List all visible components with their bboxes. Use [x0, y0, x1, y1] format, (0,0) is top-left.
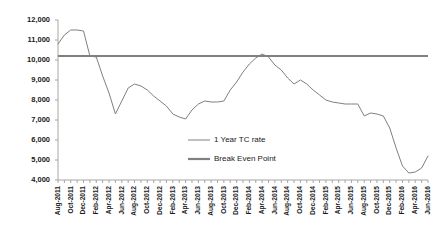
chart-legend: 1 Year TC rateBreak Even Point [188, 135, 277, 163]
x-axis-tick-label: Oct-2015 [373, 186, 380, 214]
x-axis-tick-label: Apr-2016 [411, 186, 419, 215]
x-axis-tick-label: Feb-2016 [398, 186, 405, 215]
y-axis-tick-label: 10,000 [27, 55, 50, 64]
y-axis-tick-label: 5,000 [31, 155, 50, 164]
y-axis-tick-label: 11,000 [27, 35, 50, 44]
x-axis-tick-label: Oct-2013 [220, 186, 227, 214]
y-axis-tick-label: 4,000 [31, 175, 50, 184]
x-axis-tick-label: Oct-2014 [296, 186, 303, 214]
x-axis-tick-label: Apr-2013 [181, 186, 189, 215]
x-axis-tick-label: Dec-2015 [385, 186, 392, 215]
x-axis-tick-label: Aug-2015 [360, 186, 368, 216]
x-axis-tick-label: Jun-2012 [118, 186, 125, 215]
x-axis-tick-label: Feb-2015 [322, 186, 329, 215]
x-axis-tick-label: Jun-2016 [424, 186, 431, 215]
x-axis-tick-label: Dec-2011 [79, 186, 86, 215]
line-chart: 4,0005,0006,0007,0008,0009,00010,00011,0… [0, 0, 434, 234]
x-axis-tick-label: Oct-2011 [67, 186, 74, 214]
x-axis-tick-label: Jun-2013 [194, 186, 201, 215]
y-axis-tick-label: 8,000 [31, 95, 50, 104]
chart-container: 4,0005,0006,0007,0008,0009,00010,00011,0… [0, 0, 434, 234]
x-axis-tick-label: Dec-2013 [232, 186, 239, 215]
x-axis-tick-label: Dec-2012 [156, 186, 163, 215]
x-axis-tick-label: Jun-2015 [347, 186, 354, 215]
x-axis-tick-label: Jun-2014 [271, 186, 278, 215]
y-axis-tick-label: 9,000 [31, 75, 50, 84]
x-axis-tick-label: Dec-2014 [309, 186, 316, 215]
x-axis-tick-label: Aug-2012 [130, 186, 138, 216]
x-axis-tick-label: Feb-2012 [92, 186, 99, 215]
y-axis-tick-label: 6,000 [31, 135, 50, 144]
x-axis-tick-label: Aug-2011 [54, 186, 62, 216]
x-axis-tick-label: Aug-2014 [283, 186, 291, 216]
legend-label: Break Even Point [214, 154, 277, 163]
x-axis-tick-label: Aug-2013 [207, 186, 215, 216]
x-axis-tick-label: Apr-2015 [334, 186, 342, 215]
legend-label: 1 Year TC rate [214, 135, 266, 144]
x-axis-tick-label: Apr-2012 [105, 186, 113, 215]
x-axis-tick-label: Feb-2013 [169, 186, 176, 215]
one-year-tc-rate-line [58, 30, 428, 173]
x-axis-tick-label: Feb-2014 [245, 186, 252, 215]
x-axis-tick-label: Apr-2014 [258, 186, 266, 215]
x-axis-tick-labels: Aug-2011Oct-2011Dec-2011Feb-2012Apr-2012… [54, 186, 431, 216]
y-axis-tick-labels: 4,0005,0006,0007,0008,0009,00010,00011,0… [27, 15, 50, 184]
y-axis-tick-label: 12,000 [27, 15, 50, 24]
x-axis-tick-label: Oct-2012 [143, 186, 150, 214]
y-axis-tick-label: 7,000 [31, 115, 50, 124]
